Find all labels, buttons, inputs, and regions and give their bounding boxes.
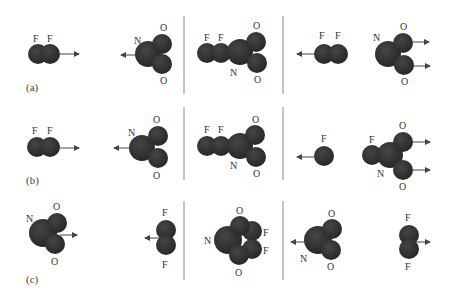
molecule-no2-b-left: N O O: [114, 114, 168, 181]
row-label-b: (b): [26, 174, 39, 187]
reaction-diagram: (a) F F N O O F F N: [0, 0, 453, 296]
label-o: O: [328, 208, 335, 219]
label-f: F: [321, 133, 327, 144]
label-o: O: [53, 201, 60, 212]
molecule-complex-a-middle: F F N O O: [197, 20, 267, 85]
label-o: O: [51, 256, 58, 267]
atom-o: [246, 32, 266, 52]
label-o: O: [327, 261, 334, 272]
atom-o: [229, 245, 249, 265]
label-n: N: [134, 35, 141, 46]
atom-o: [45, 234, 65, 254]
row-label-a: (a): [26, 81, 39, 94]
label-f: F: [47, 33, 53, 44]
atom-f: [40, 44, 60, 64]
molecule-f2-c-right: F F: [399, 212, 430, 272]
row-label-c: (c): [26, 273, 39, 286]
label-n: N: [300, 253, 307, 264]
molecule-complex-b-middle: F F N O O: [197, 114, 266, 179]
label-f: F: [319, 30, 325, 41]
label-f: F: [162, 259, 168, 270]
label-o: O: [235, 267, 242, 278]
label-f: F: [263, 227, 269, 238]
label-o: O: [253, 168, 260, 179]
label-f: F: [33, 33, 39, 44]
label-n: N: [377, 168, 384, 179]
molecule-no2-c-left: N O O: [26, 201, 77, 267]
molecule-fno2-b-right: F N O O: [362, 120, 430, 192]
atom-o: [47, 213, 67, 233]
atom-o: [148, 148, 168, 168]
molecule-complex-c-middle: N O O F F: [204, 205, 269, 278]
label-f: F: [218, 32, 224, 43]
label-n: N: [230, 160, 237, 171]
molecule-f-b-right: F: [297, 133, 334, 166]
atom-f: [328, 44, 348, 64]
label-o: O: [236, 205, 243, 216]
atom-o: [321, 240, 341, 260]
label-f: F: [162, 207, 168, 218]
atom-o: [393, 33, 413, 53]
atom-o: [322, 219, 342, 239]
label-f: F: [369, 134, 375, 145]
row-c: (c) N O O F F N O O: [26, 201, 430, 286]
atom-o: [152, 54, 172, 74]
label-o: O: [254, 74, 261, 85]
atom-o: [148, 126, 168, 146]
label-n: N: [128, 127, 135, 138]
label-o: O: [253, 20, 260, 31]
atom-o: [245, 125, 265, 145]
row-b: (b) F F N O O F F N: [26, 114, 430, 192]
atom-o: [393, 132, 413, 152]
molecule-f2-c-left: F F: [145, 207, 176, 270]
label-n: N: [230, 67, 237, 78]
label-f: F: [263, 245, 269, 256]
label-f: F: [405, 261, 411, 272]
label-f: F: [335, 30, 341, 41]
molecule-f2-a-right: F F: [297, 30, 348, 64]
atom-o: [394, 55, 414, 75]
label-n: N: [373, 32, 380, 43]
atom-o: [152, 34, 172, 54]
label-f: F: [204, 32, 210, 43]
atom-f: [314, 146, 334, 166]
label-f: F: [405, 212, 411, 223]
molecule-f2-a-left: F F: [28, 33, 79, 64]
atom-o: [247, 53, 267, 73]
atom-o: [246, 147, 266, 167]
atom-o: [393, 160, 413, 180]
row-a: (a) F F N O O F F N: [26, 20, 430, 94]
label-n: N: [26, 213, 33, 224]
label-o: O: [399, 181, 406, 192]
molecule-f2-b-left: F F: [27, 125, 79, 157]
label-o: O: [153, 114, 160, 125]
molecule-no2-c-right: N O O: [291, 208, 342, 272]
label-f: F: [32, 125, 38, 136]
label-n: N: [204, 235, 211, 246]
label-f: F: [218, 124, 224, 135]
label-o: O: [153, 170, 160, 181]
label-o: O: [401, 76, 408, 87]
label-o: O: [400, 21, 407, 32]
molecule-no2-a-left: N O O: [121, 22, 172, 86]
label-o: O: [160, 75, 167, 86]
atom-f: [40, 137, 60, 157]
label-o: O: [252, 114, 259, 125]
label-o: O: [160, 22, 167, 33]
label-o: O: [399, 120, 406, 131]
label-f: F: [47, 125, 53, 136]
molecule-no2-a-right: N O O: [373, 21, 430, 87]
label-f: F: [204, 124, 210, 135]
atom-o: [230, 216, 250, 236]
